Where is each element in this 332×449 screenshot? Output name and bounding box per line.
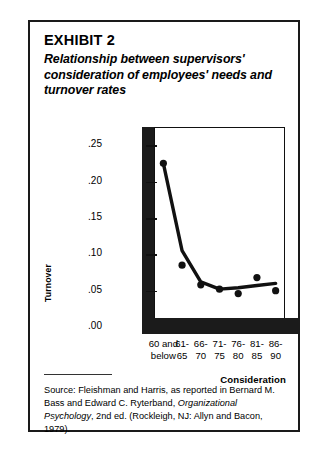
data-point-marker (197, 281, 204, 288)
exhibit-subtitle: Relationship between supervisors' consid… (44, 52, 288, 100)
y-tick-label: .15 (72, 211, 102, 222)
y-tick-label: .00 (72, 320, 102, 331)
data-point-marker (272, 287, 279, 294)
x-axis-labels: 60 andbelow61-6566-7071-7576-8081-8586-9… (142, 338, 302, 372)
source-note: Source: Fleishman and Harris, as reporte… (44, 384, 286, 436)
data-point-marker (253, 274, 260, 281)
y-tick-label: .10 (72, 247, 102, 258)
exhibit-label: EXHIBIT 2 (44, 32, 288, 49)
data-point-marker (216, 286, 223, 293)
x-axis-baseline (142, 318, 300, 334)
chart-data-layer (154, 127, 285, 327)
y-axis-title: Turnover (43, 247, 53, 319)
source-divider (44, 374, 112, 375)
source-text-pre: Source: Fleishman and Harris, as reporte… (44, 385, 275, 408)
x-tick-label: 86-90 (255, 338, 297, 362)
trend-line (163, 163, 275, 289)
y-tick-label: .25 (72, 138, 102, 149)
y-tick-label: .05 (72, 284, 102, 295)
data-point-marker (178, 262, 185, 269)
exhibit-header: EXHIBIT 2 Relationship between superviso… (44, 32, 288, 99)
y-tick-label: .20 (72, 175, 102, 186)
data-point-marker (160, 160, 167, 167)
chart-plot-region: Turnover .25.20.15.10.05.00 60 andbelow6… (30, 122, 302, 342)
exhibit-card: EXHIBIT 2 Relationship between superviso… (28, 20, 300, 432)
data-point-marker (235, 290, 242, 297)
